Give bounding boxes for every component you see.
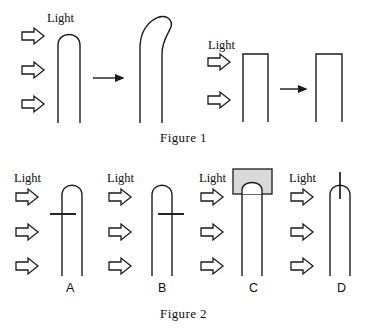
light-arrow-icon xyxy=(201,258,223,274)
light-arrow-icon xyxy=(16,189,38,205)
light-arrow-icon xyxy=(291,189,313,205)
light-arrow-icon xyxy=(291,224,313,240)
figure2-group xyxy=(16,169,350,276)
light-label-panel-a: Light xyxy=(14,172,41,185)
coleoptile-decapitated-before xyxy=(243,54,268,122)
panel-label-c: C xyxy=(249,282,258,295)
panel-label-d: D xyxy=(337,282,346,295)
light-label-panel-c: Light xyxy=(199,172,226,185)
caption-figure-2: Figure 2 xyxy=(160,307,207,320)
light-arrow-icon xyxy=(22,28,44,44)
panel-c-group xyxy=(201,169,272,276)
light-arrow-icon xyxy=(109,189,131,205)
light-arrow-icon xyxy=(201,224,223,240)
coleoptile-panel-c xyxy=(242,185,262,276)
coleoptile-bent-left-wall xyxy=(140,16,170,123)
light-label-panel-b: Light xyxy=(107,172,134,185)
coleoptile-panel-b xyxy=(152,185,172,276)
light-arrow-icon xyxy=(109,258,131,274)
light-label-fig1-right: Light xyxy=(208,39,235,52)
coleoptile-panel-a xyxy=(62,185,82,276)
coleoptile-intact-upright xyxy=(58,35,80,124)
light-label-fig1-left: Light xyxy=(47,12,74,25)
light-arrow-icon xyxy=(16,258,38,274)
light-label-panel-d: Light xyxy=(289,172,316,185)
coleoptile-decapitated-after xyxy=(316,54,342,122)
light-arrow-icon xyxy=(208,92,230,108)
panel-label-a: A xyxy=(66,282,74,295)
panel-b-group xyxy=(109,185,184,276)
coleoptile-tip-under-cap-panel-c xyxy=(242,183,262,195)
light-arrow-icon xyxy=(201,189,223,205)
light-arrow-icon xyxy=(22,62,44,78)
light-arrows-fig1-right xyxy=(208,54,230,108)
light-arrows-fig1-left xyxy=(22,28,44,112)
phototropism-figure: Light Light Figure 1 Light Light Light L… xyxy=(0,0,373,328)
diagram-canvas xyxy=(0,0,373,328)
light-arrow-icon xyxy=(291,258,313,274)
panel-d-group xyxy=(291,172,350,276)
light-arrow-icon xyxy=(109,224,131,240)
light-arrow-icon xyxy=(208,54,230,70)
light-arrow-icon xyxy=(22,96,44,112)
caption-figure-1: Figure 1 xyxy=(160,131,207,144)
panel-label-b: B xyxy=(158,282,166,295)
coleoptile-bent-right-wall xyxy=(162,20,171,123)
light-arrow-icon xyxy=(16,224,38,240)
panel-a-group xyxy=(16,185,82,276)
figure1-group xyxy=(22,16,342,123)
